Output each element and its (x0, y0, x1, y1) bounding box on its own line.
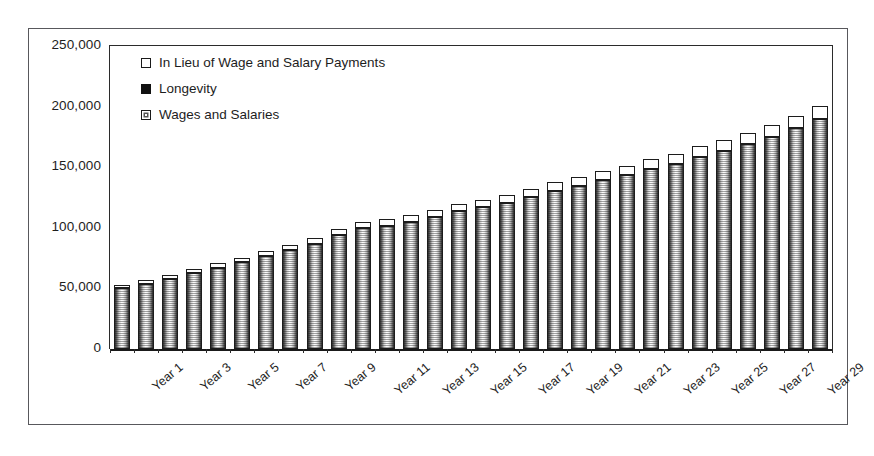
stacked-bar[interactable] (475, 200, 491, 349)
bar-slot (134, 46, 158, 349)
stacked-bar[interactable] (186, 269, 202, 349)
stacked-bar[interactable] (692, 146, 708, 349)
stacked-bar[interactable] (595, 171, 611, 349)
x-axis-tick (471, 349, 472, 353)
stacked-bar[interactable] (138, 280, 154, 349)
stacked-bar[interactable] (114, 285, 130, 349)
x-axis-tick-label: Year 17 (536, 360, 578, 398)
plot-area (109, 45, 833, 349)
x-axis-tick (375, 349, 376, 353)
stacked-bar[interactable] (427, 210, 443, 349)
bar-slot (230, 46, 254, 349)
stacked-bar[interactable] (258, 251, 274, 349)
stacked-bar[interactable] (355, 222, 371, 349)
x-axis-tick-label: Year 7 (294, 360, 330, 394)
x-axis-tick (615, 349, 616, 353)
stacked-bar[interactable] (331, 229, 347, 349)
bar-segment-wages (595, 180, 611, 349)
bar-slot (712, 46, 736, 349)
stacked-bar[interactable] (716, 140, 732, 349)
stacked-bar[interactable] (619, 166, 635, 349)
bar-slot (615, 46, 639, 349)
x-axis-tick (351, 349, 352, 353)
bar-slot (327, 46, 351, 349)
bar-segment-wages (355, 228, 371, 349)
x-axis-tick-label: Year 11 (391, 360, 432, 398)
bar-segment-wages (331, 235, 347, 349)
bar-segment-wages (668, 164, 684, 349)
bar-segment-wages (571, 186, 587, 349)
chart-frame: 250,000200,000150,000100,00050,0000 In L… (28, 28, 848, 425)
bar-slot (375, 46, 399, 349)
stacked-bar[interactable] (740, 133, 756, 349)
x-axis-tick-label: Year 13 (440, 360, 482, 398)
x-axis-tick (664, 349, 665, 353)
stacked-bar[interactable] (764, 125, 780, 349)
bar-segment-wages (379, 226, 395, 349)
bar-segment-wages (547, 191, 563, 349)
bar-segment-in-lieu (571, 177, 587, 186)
stacked-bar[interactable] (307, 238, 323, 349)
x-axis-tick (832, 349, 833, 353)
x-axis-tick (736, 349, 737, 353)
bar-segment-in-lieu (619, 166, 635, 175)
bar-slot (471, 46, 495, 349)
x-axis-tick (158, 349, 159, 353)
bar-segment-in-lieu (523, 189, 539, 197)
stacked-bar[interactable] (523, 189, 539, 349)
x-axis-tick (303, 349, 304, 353)
x-axis-tick (254, 349, 255, 353)
x-axis-tick (712, 349, 713, 353)
stacked-bar[interactable] (812, 106, 828, 349)
x-axis-tick (639, 349, 640, 353)
stacked-bar[interactable] (403, 215, 419, 349)
bar-segment-in-lieu (403, 215, 419, 222)
x-axis-tick (519, 349, 520, 353)
stacked-bar[interactable] (162, 275, 178, 349)
bar-segment-in-lieu (812, 106, 828, 118)
stacked-bar[interactable] (282, 245, 298, 349)
y-axis-tick-label: 0 (21, 340, 101, 355)
bar-slot (303, 46, 327, 349)
bar-slot (567, 46, 591, 349)
bar-segment-in-lieu (643, 159, 659, 169)
stacked-bar[interactable] (451, 204, 467, 349)
bar-segment-in-lieu (788, 116, 804, 128)
bar-slot (278, 46, 302, 349)
stacked-bar[interactable] (234, 258, 250, 350)
stacked-bar[interactable] (499, 195, 515, 349)
x-axis-tick (567, 349, 568, 353)
bar-segment-in-lieu (451, 204, 467, 211)
bar-segment-wages (692, 157, 708, 349)
bar-segment-wages (812, 119, 828, 349)
stacked-bar[interactable] (210, 263, 226, 349)
bar-segment-wages (186, 273, 202, 349)
x-axis-tick-label: Year 25 (729, 360, 771, 398)
bar-segment-wages (788, 128, 804, 349)
bar-segment-wages (764, 137, 780, 349)
x-axis-tick-label: Year 29 (825, 360, 867, 398)
bar-segment-wages (114, 288, 130, 349)
x-axis-tick (688, 349, 689, 353)
stacked-bar[interactable] (668, 154, 684, 349)
bar-segment-wages (427, 217, 443, 349)
x-axis-tick (182, 349, 183, 353)
stacked-bar[interactable] (571, 177, 587, 349)
bar-slot (543, 46, 567, 349)
bar-segment-wages (475, 207, 491, 349)
bar-segment-wages (307, 244, 323, 349)
stacked-bar[interactable] (788, 116, 804, 349)
bar-segment-in-lieu (499, 195, 515, 203)
bar-slot (639, 46, 663, 349)
stacked-bar[interactable] (547, 182, 563, 349)
bar-segment-wages (643, 169, 659, 349)
bar-segment-wages (162, 279, 178, 349)
bar-slot (591, 46, 615, 349)
bar-slot (688, 46, 712, 349)
x-axis-tick (495, 349, 496, 353)
bar-segment-in-lieu (475, 200, 491, 208)
stacked-bar[interactable] (379, 219, 395, 349)
x-axis-tick-label: Year 5 (246, 360, 282, 394)
stacked-bar[interactable] (643, 159, 659, 349)
y-axis-tick-label: 100,000 (21, 219, 101, 234)
